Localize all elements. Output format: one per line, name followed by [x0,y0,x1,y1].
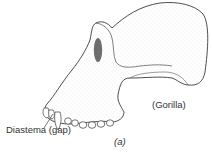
skull-figure: Diastema (gap) (Gorilla) (a) [0,0,213,154]
molar [88,122,96,129]
diastema-label: Diastema (gap) [6,124,71,135]
panel-label: (a) [114,136,126,147]
orbit [94,38,102,62]
molar [106,120,113,126]
molar [97,121,105,128]
molar [79,122,87,129]
premolar [72,120,79,126]
species-label: (Gorilla) [152,99,186,110]
